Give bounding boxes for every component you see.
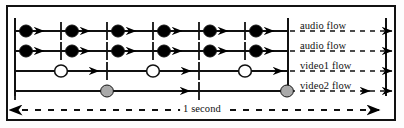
- flow-label-video2: video2 flow: [300, 80, 352, 91]
- flow-timing-figure: audio flow audio flow video1 flow video2…: [0, 0, 404, 128]
- video1-flow-marker-2: [239, 65, 252, 77]
- video2-flow-marker-1: [281, 85, 294, 97]
- audio-flow-2-marker-2: [112, 45, 125, 57]
- audio-flow-1-marker-0: [20, 25, 33, 37]
- audio-flow-1-marker-1: [66, 25, 79, 37]
- flow-label-audio-1: audio flow: [300, 20, 346, 31]
- video2-flow-marker-0: [101, 85, 114, 97]
- audio-flow-1-marker-3: [158, 25, 171, 37]
- flow-label-audio-2: audio flow: [300, 40, 346, 51]
- audio-flow-2-marker-1: [66, 45, 79, 57]
- video1-flow-marker-1: [147, 65, 160, 77]
- audio-flow-2-marker-4: [204, 45, 217, 57]
- video1-flow-marker-0: [55, 65, 68, 77]
- flow-label-video1: video1 flow: [300, 60, 352, 71]
- audio-flow-2-marker-5: [250, 45, 263, 57]
- audio-flow-2-marker-0: [20, 45, 33, 57]
- audio-flow-2-marker-3: [158, 45, 171, 57]
- audio-flow-1-marker-2: [112, 25, 125, 37]
- audio-flow-1-marker-4: [204, 25, 217, 37]
- audio-flow-1-marker-5: [250, 25, 263, 37]
- timescale-label: 1 second: [180, 103, 224, 114]
